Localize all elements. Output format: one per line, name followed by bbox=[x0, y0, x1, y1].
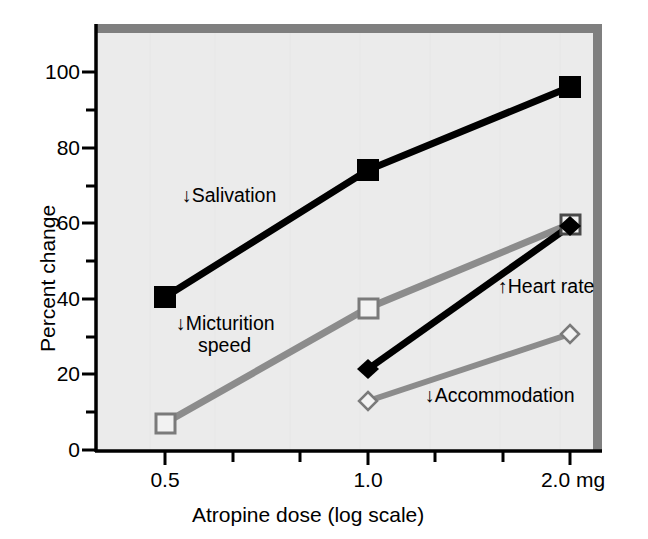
xtick-label-0-5: 0.5 bbox=[135, 468, 195, 492]
ytick-label-80: 80 bbox=[22, 136, 80, 160]
annotation-micturition-line1: ↓Micturition bbox=[176, 313, 275, 335]
frame-right-shadow bbox=[593, 24, 602, 452]
annotation-salivation: ↓Salivation bbox=[182, 185, 276, 207]
ytick-label-0: 0 bbox=[22, 438, 80, 462]
ytick-label-20: 20 bbox=[22, 362, 80, 386]
annotation-heart-rate: ↑Heart rate bbox=[498, 276, 594, 298]
xtick-label-1-0: 1.0 bbox=[338, 468, 398, 492]
x-axis-title: Atropine dose (log scale) bbox=[192, 503, 424, 527]
annotation-micturition-speed: ↓Micturition speed bbox=[176, 313, 275, 357]
y-axis-title: Percent change bbox=[36, 205, 60, 352]
annotation-accommodation: ↓Accommodation bbox=[425, 385, 575, 407]
annotation-micturition-line2: speed bbox=[176, 335, 275, 357]
atropine-dose-response-chart bbox=[0, 0, 648, 539]
xtick-label-2-0-mg: 2.0 mg bbox=[523, 468, 623, 492]
frame-top-shadow bbox=[95, 24, 602, 33]
chart-figure: 100 80 60 40 20 0 0.5 1.0 2.0 mg Percent… bbox=[0, 0, 648, 539]
ytick-label-100: 100 bbox=[22, 60, 80, 84]
x-axis-ticks bbox=[165, 451, 570, 465]
